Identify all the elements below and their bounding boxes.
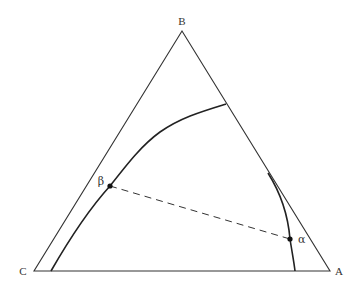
alpha-point (287, 236, 292, 241)
vertex-label-left: C (19, 265, 26, 277)
ternary-triangle (34, 31, 330, 271)
tie-line (110, 186, 290, 239)
beta-point (107, 183, 112, 188)
vertex-label-right: A (335, 265, 343, 277)
alpha-phase-boundary-curve (268, 173, 295, 271)
beta-phase-boundary-curve (51, 104, 226, 271)
beta-label: β (98, 175, 104, 188)
vertex-label-top: B (178, 15, 185, 27)
ternary-diagram: B C A β α (0, 0, 357, 287)
alpha-label: α (298, 233, 306, 246)
